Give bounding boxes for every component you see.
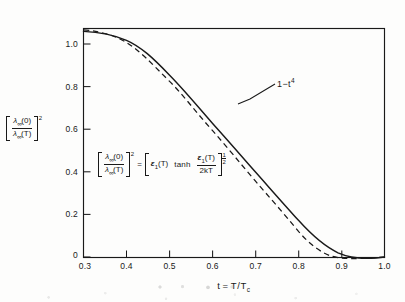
curve-bcs-solid: [84, 31, 385, 258]
epsilon-argument-2: (T): [205, 153, 215, 162]
lhs-exponent: 2: [131, 151, 134, 157]
y-tick-label-0.2: 0.2: [56, 210, 78, 219]
x-tick-label-0.9: 0.9: [336, 262, 348, 271]
y-tick-marks: [84, 44, 91, 257]
dashed-curve-annotation: 1−t4: [277, 78, 295, 89]
lhs-numerator-argument: (0): [113, 152, 123, 161]
annotation-exponent: 4: [291, 77, 295, 84]
inline-equation-rhs: ε1(T) tanh ε1(T) 2kT 1 2: [145, 153, 227, 176]
outer-exponent-denominator: 2: [222, 159, 226, 165]
inline-equation-lhs: λ∞(0) λ∞(T) 2: [98, 152, 134, 177]
bracket-left-icon: [6, 116, 10, 141]
y-tick-label-1.0: 1.0: [56, 40, 78, 49]
x-tick-label-0.5: 0.5: [163, 262, 175, 271]
plot-frame: [84, 29, 385, 258]
rhs-fraction: ε1(T) 2kT: [197, 154, 216, 175]
outer-exponent-numerator: 1: [222, 152, 226, 159]
lhs-bracket-left-icon: [98, 152, 102, 177]
figure-container: λ∞(0) λ∞(T) 2 1.0 0.8 0.6 0.4 0.2 0 0.3 …: [0, 0, 405, 302]
y-tick-label-0: 0: [56, 251, 78, 260]
x-axis-denominator-subscript: c: [247, 286, 251, 293]
x-tick-label-1.0: 1.0: [378, 262, 390, 271]
y-axis-title-exponent: 2: [39, 115, 42, 121]
numerator-argument: (0): [21, 116, 31, 125]
rhs-outer-exponent: 1 2: [222, 152, 226, 165]
rhs-bracket-left-icon: [145, 153, 149, 176]
x-axis-equals-sign: =: [221, 280, 231, 291]
x-tick-label-0.4: 0.4: [120, 262, 132, 271]
lhs-bracket-right-icon: [126, 152, 130, 177]
annotation-base: 1−t: [277, 79, 291, 89]
rhs-fraction-denominator: 2kT: [199, 166, 214, 175]
inline-equation: λ∞(0) λ∞(T) 2 = ε1(T) tanh ε1(T) 2kT: [98, 152, 226, 177]
x-tick-label-0.7: 0.7: [249, 262, 261, 271]
epsilon-argument-1: (T): [158, 159, 168, 168]
x-tick-label-0.6: 0.6: [206, 262, 218, 271]
tanh-operator: tanh: [174, 161, 190, 169]
curve-one-minus-t4: [84, 30, 385, 259]
x-axis-title: t=T/Tc: [217, 281, 250, 293]
x-tick-label-0.3: 0.3: [79, 262, 91, 271]
y-tick-label-0.6: 0.6: [56, 125, 78, 134]
y-axis-title-fraction: λ∞(0) λ∞(T) 2: [6, 116, 42, 141]
annotation-leader-line: [238, 84, 275, 104]
y-axis-title: λ∞(0) λ∞(T) 2: [6, 116, 42, 143]
bracket-right-icon: [34, 116, 38, 141]
y-tick-label-0.8: 0.8: [56, 82, 78, 91]
y-tick-label-0.4: 0.4: [56, 168, 78, 177]
x-tick-label-0.8: 0.8: [292, 262, 304, 271]
denominator-argument: (T): [21, 129, 31, 138]
rhs-epsilon-term: ε1(T): [151, 160, 168, 170]
rhs-bracket-right-icon: [218, 153, 222, 176]
inline-equation-equals-sign: =: [136, 161, 143, 169]
lhs-denominator-argument: (T): [113, 165, 123, 174]
